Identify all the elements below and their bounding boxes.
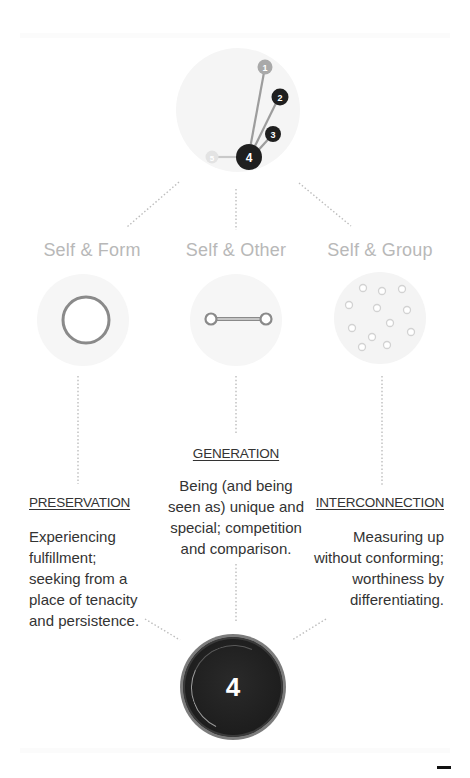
scattered-dots-icon [334, 272, 426, 364]
node-2-icon: 2 [272, 89, 289, 106]
node-1-icon: 1 [258, 60, 273, 75]
page-mark [437, 766, 451, 769]
svg-text:4: 4 [246, 151, 253, 165]
stage-title: INTERCONNECTION [300, 495, 444, 510]
stage-interconnection: INTERCONNECTION Measuring up without con… [300, 495, 444, 610]
single-ring-icon [37, 274, 129, 366]
svg-text:5: 5 [210, 154, 215, 163]
result-badge: 4 [183, 637, 283, 737]
group-label-self-other: Self & Other [166, 240, 306, 261]
stage-title: GENERATION [161, 446, 311, 461]
stage-title: PRESERVATION [29, 495, 179, 510]
group-label-self-group: Self & Group [310, 240, 450, 261]
node-4-active-icon: 4 [236, 144, 262, 170]
svg-text:3: 3 [270, 130, 275, 140]
svg-text:2: 2 [277, 93, 282, 103]
linked-pair-icon [190, 274, 282, 366]
node-3-icon: 3 [265, 126, 281, 142]
node-5-icon: 5 [206, 151, 219, 164]
stage-preservation: PRESERVATION Experiencing fulfillment; s… [29, 495, 179, 631]
group-label-self-form: Self & Form [22, 240, 162, 261]
stage-description: Experiencing fulfillment; seeking from a… [29, 526, 179, 631]
stage-description: Measuring up without conforming; worthin… [274, 526, 444, 610]
upper-connectors [127, 182, 351, 230]
svg-text:1: 1 [262, 63, 267, 73]
